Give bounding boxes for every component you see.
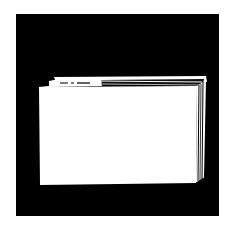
- folder-front: [39, 86, 197, 185]
- folder-illustration: [16, 14, 219, 216]
- folder-icon: [16, 14, 219, 216]
